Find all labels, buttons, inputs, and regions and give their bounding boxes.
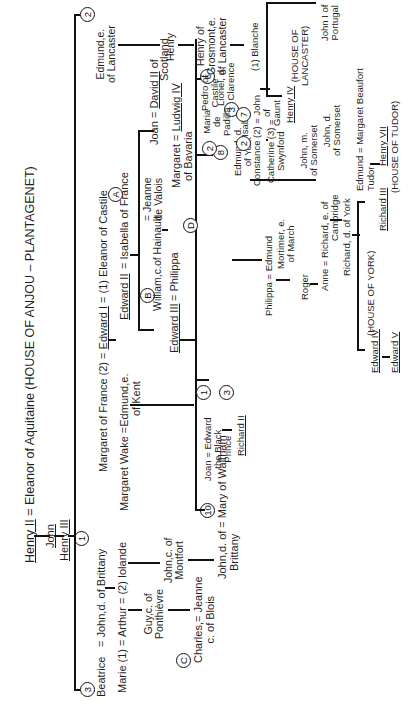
portugal-line2: Portugal (330, 5, 340, 41)
person-jeanne-de-valois: = Jeanne de Valois (142, 178, 164, 222)
marker-1: 1 (74, 531, 89, 546)
marker-1-black-prince: 1 (196, 385, 211, 400)
line (195, 117, 197, 119)
line (138, 329, 154, 331)
line (266, 2, 268, 97)
marker-d: D (183, 218, 198, 233)
margaret-text: Margaret = (170, 131, 182, 188)
eleanor-castile-text: = (1) Eleanor of Castile (97, 190, 109, 306)
pedro-line2: Castile (210, 75, 220, 111)
marker-2-constance: 2 (236, 136, 251, 151)
marker-3: 3 (80, 682, 95, 697)
person-henry-iv: Henry IV (285, 86, 295, 123)
house-of-york: (HOUSE OF YORK) (366, 251, 376, 336)
person-edward-ii: Edward II (118, 274, 130, 320)
line (266, 95, 282, 97)
tudor-label: Tudor (366, 167, 376, 191)
mortimer-line2: of March (286, 219, 296, 269)
person-margaret-wake: Margaret Wake =Edmund,e. (118, 374, 130, 511)
person-isabella-of-france: = Isabella of France (118, 172, 130, 269)
brittany-label: Brittany (228, 534, 240, 571)
cambridge-label: Cambridge (330, 195, 340, 241)
person-pedro-castile: Pedro of Castile (200, 75, 220, 111)
person-beatrice: Beatrice (95, 657, 107, 697)
marker-c: C (176, 653, 191, 668)
line (168, 609, 190, 611)
line (105, 587, 115, 589)
person-margaret-of-france: Margaret of France (2) = Edward I = (1) … (97, 190, 109, 472)
line (180, 339, 195, 341)
maria-line3: Padilla (222, 107, 232, 136)
line (310, 283, 318, 285)
person-edmund-margaret-beaufort: Edmund = Margaret Beaufort (355, 68, 365, 191)
charles-line1: Charles,= Jeanne (192, 576, 204, 663)
house-of-tudor: (HOUSE OF TUDOR) (390, 101, 400, 193)
charles-line2: c. of Blois (204, 576, 216, 663)
person-john-m-somerset: John, m. of Somerset (299, 125, 319, 176)
joan-text: Joan = (148, 109, 160, 145)
person-roger: Roger (300, 274, 310, 300)
line (130, 404, 194, 406)
marker-2-edmund: 2 (80, 7, 95, 22)
of-kent-label: of Kent (130, 381, 142, 416)
edmund-lanc-line2: of Lancaster (106, 25, 117, 83)
person-henry: Henry (165, 33, 176, 61)
line (138, 130, 140, 331)
line (162, 229, 168, 231)
line (230, 44, 244, 46)
person-henry-iii: Henry III (58, 519, 70, 561)
person-john-montfort: John,c. of Montfort (163, 537, 185, 583)
jds-line2: of Somerset (332, 105, 342, 156)
person-john-duke-brittany: = John,d. of Brittany (95, 549, 107, 647)
jms-line2: of Somerset (309, 125, 319, 176)
person-edmund-lancaster: Edmund,e. of Lancaster (95, 25, 117, 83)
line (266, 2, 316, 4)
marker-3-lionel: 3 (219, 385, 234, 400)
person-edward-iii: Edward III (168, 303, 180, 353)
person-mortimer: Mortimer, e. of March (276, 219, 296, 269)
marker-7: 7 (236, 107, 251, 122)
person-henry-grosmont: Henry of Grosmont,e. of Lancaster (195, 17, 228, 75)
line (232, 259, 262, 261)
line (195, 39, 197, 511)
person-richard-iii: Richard III (378, 188, 388, 231)
montfort-line2: Montfort (174, 537, 185, 583)
line (266, 139, 268, 141)
person-charles-jeanne: Charles,= Jeanne c. of Blois (192, 576, 216, 663)
line (357, 349, 365, 351)
lancaster-line2: LANCASTER) (300, 26, 310, 86)
title: Henry II = Eleanor of Aquitaine (HOUSE O… (23, 166, 37, 563)
person-margaret-ludwig: Margaret = Ludwig IV (170, 83, 182, 188)
line (108, 339, 116, 341)
line (276, 279, 290, 281)
jeanne-line2: de Valois (153, 178, 164, 222)
person-catherine-swynford: Catherine (3) = Swynford (266, 119, 286, 183)
person-marie-arthur-iolande: Marie (1) = Arthur = (2) Iolande (116, 542, 128, 693)
house-of-lancaster: (HOUSE OF LANCASTER) (290, 26, 310, 86)
title-rest: = Eleanor of Aquitaine (HOUSE OF ANJOU –… (23, 166, 37, 519)
person-john-portugal: John I of Portugal (320, 5, 340, 41)
line (222, 429, 232, 431)
line (178, 44, 194, 46)
person-blanche: (1) Blanche (250, 22, 260, 71)
of-bavaria-label: of Bavaria (182, 131, 194, 181)
line (128, 609, 142, 611)
line (118, 44, 160, 46)
line (195, 379, 209, 381)
person-edward-v: Edward V (390, 332, 400, 373)
edward-i: Edward I (97, 306, 109, 349)
person-philippa: = Philippa (168, 252, 180, 301)
line (130, 254, 138, 256)
line (357, 201, 359, 351)
line (188, 559, 214, 561)
margaret-france-text: Margaret of France (2) = (97, 349, 109, 472)
catherine-line2: Swynford (276, 119, 286, 183)
line (250, 179, 316, 181)
ludwig-iv: Ludwig IV (170, 83, 182, 131)
grosmont-line3: of Lancaster (217, 17, 228, 75)
person-richard-ii: Richard II (236, 415, 246, 456)
line (128, 562, 160, 564)
person-richard-york: Richard, d. of York (342, 198, 352, 276)
guy-line2: Ponthièvre (154, 589, 165, 639)
person-maria-padilla: Maria de Padilla (202, 107, 232, 136)
